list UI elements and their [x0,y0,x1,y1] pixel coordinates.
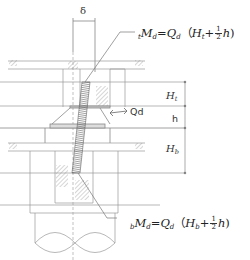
dim-label-bottom: Hb [166,144,179,154]
dim-label-mid: h [172,114,178,124]
piles [35,213,115,253]
delta-label: δ [80,6,86,16]
formula-top: tMd=Qd（Ht+12h) [138,26,235,41]
shear-arrow [110,108,127,116]
formula-bottom: bMd=Qd（Hb+12h) [130,216,230,231]
lower-column [0,151,185,213]
dim-label-top: Ht [166,91,177,101]
shear-label: Qd [130,107,144,117]
upper-column [0,69,185,107]
upper-slab [8,60,145,69]
joint-plates [0,106,185,143]
height-dimensions [184,81,186,174]
